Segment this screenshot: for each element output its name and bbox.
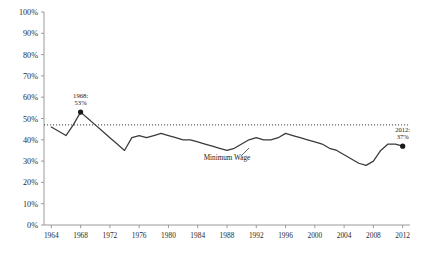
data-point-marker [400,144,405,149]
x-tick-label: 2008 [366,231,381,240]
series-inline-label: Minimum Wage [204,154,251,162]
x-tick-label: 1984 [190,231,205,240]
y-tick-label: 90% [23,29,38,38]
x-tick-label: 1968 [73,231,88,240]
x-tick-label: 2000 [307,231,322,240]
y-tick-label: 50% [23,115,38,124]
y-tick-label: 40% [23,136,38,145]
x-tick-label: 1996 [278,231,293,240]
annotation-value: 53% [75,99,88,106]
y-tick-label: 60% [23,93,38,102]
chart-container: 100%90%80%70%60%50%40%30%20%10%0%1964196… [0,0,424,253]
x-tick-label: 1972 [102,231,117,240]
minimum-wage-line-chart: 100%90%80%70%60%50%40%30%20%10%0%1964196… [0,0,424,253]
x-tick-label: 2004 [337,231,352,240]
y-tick-label: 0% [27,221,38,230]
x-tick-label: 1980 [161,231,176,240]
y-tick-label: 100% [19,8,38,17]
annotation-label: 1968: [73,92,88,99]
x-tick-label: 1964 [44,231,59,240]
x-tick-label: 1988 [220,231,235,240]
x-tick-label: 2012 [395,231,410,240]
annotation-value: 37% [397,133,410,140]
x-tick-label: 1992 [249,231,264,240]
annotation-label: 2012: [395,126,410,133]
y-tick-label: 70% [23,72,38,81]
data-point-marker [78,110,83,115]
x-tick-label: 1976 [132,231,147,240]
y-tick-label: 30% [23,157,38,166]
y-tick-label: 20% [23,178,38,187]
y-tick-label: 80% [23,51,38,60]
y-tick-label: 10% [23,200,38,209]
